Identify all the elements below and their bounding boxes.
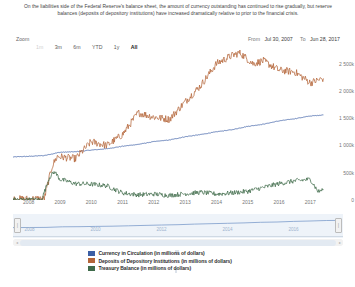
- navigator-tick-label: 2010: [90, 227, 100, 232]
- chart-plot-area[interactable]: [13, 50, 326, 200]
- x-axis-tick-label: 2010: [86, 199, 97, 205]
- x-axis-tick-label: 2009: [54, 199, 65, 205]
- scroll-left-icon[interactable]: ◂: [13, 239, 20, 246]
- range-selector-toolbar: Zoom 1m 3m 6m YTD 1y All From Jul 30, 20…: [0, 35, 355, 47]
- from-label: From: [248, 36, 260, 42]
- scrollbar-grip-icon: [176, 241, 181, 246]
- navigator-tick-label: 2016: [288, 227, 298, 232]
- scrollbar-track[interactable]: [20, 239, 336, 246]
- horizontal-scrollbar[interactable]: ◂ ▸: [13, 239, 343, 246]
- date-range-inputs: From Jul 30, 2007 To Jun 28, 2017: [248, 36, 346, 42]
- legend-label-treasury: Treasury Balance (in millions of dollars…: [99, 265, 192, 271]
- navigator-handle-right[interactable]: |: [335, 218, 342, 233]
- x-axis-tick-label: 2008: [23, 199, 34, 205]
- zoom-label: Zoom: [16, 36, 29, 42]
- y-axis-tick-label: 2 000k: [339, 88, 354, 94]
- x-axis-tick-label: 2014: [211, 199, 222, 205]
- navigator-tick-label: 2008: [24, 227, 34, 232]
- navigator-tick-label: 2014: [222, 227, 232, 232]
- y-axis-tick-label: 1 500k: [339, 115, 354, 121]
- legend-label-currency: Currency in Circulation (in millions of …: [99, 250, 205, 256]
- y-axis-labels: 0500k1 000k1 500k2 000k2 500k: [327, 50, 355, 202]
- y-axis-tick-label: 2 500k: [339, 61, 354, 67]
- from-date-input[interactable]: Jul 30, 2007: [264, 36, 292, 42]
- navigator-tick-label: 2012: [156, 227, 166, 232]
- legend-item-treasury[interactable]: Treasury Balance (in millions of dollars…: [0, 265, 355, 271]
- x-axis-tick-label: 2017: [305, 199, 316, 205]
- scroll-right-icon[interactable]: ▸: [336, 239, 343, 246]
- x-axis-tick-label: 2016: [273, 199, 284, 205]
- legend-item-currency[interactable]: Currency in Circulation (in millions of …: [0, 250, 355, 256]
- chart-series-line: [13, 115, 323, 157]
- stock-chart-widget: On the liabilities side of the Federal R…: [0, 0, 355, 287]
- range-buttons[interactable]: 1m 3m 6m YTD 1y All: [36, 35, 144, 45]
- chart-svg: [13, 50, 326, 200]
- y-axis-tick-label: 0: [351, 197, 354, 203]
- x-axis-labels: 2008200920102011201220132014201520162017: [13, 199, 326, 209]
- chart-series-line: [13, 50, 323, 200]
- chart-caption: On the liabilities side of the Federal R…: [24, 3, 332, 18]
- x-axis-tick-label: 2012: [148, 199, 159, 205]
- navigator-axis-line: [13, 236, 343, 237]
- x-axis-tick-label: 2013: [180, 199, 191, 205]
- navigator-series-area: 20082010201220142016: [13, 214, 343, 238]
- legend-item-deposits[interactable]: Deposits of Depository Institutions (in …: [0, 258, 355, 264]
- legend-swatch-currency: [88, 251, 95, 256]
- legend-swatch-deposits: [88, 258, 95, 263]
- y-axis-tick-label: 500k: [343, 170, 354, 176]
- to-label: To: [300, 36, 305, 42]
- navigator[interactable]: 20082010201220142016 | |: [13, 214, 343, 238]
- scrollbar-thumb[interactable]: [20, 240, 336, 246]
- y-axis-tick-label: 1 000k: [339, 142, 354, 148]
- chart-series-line: [13, 172, 323, 201]
- navigator-handle-left[interactable]: |: [14, 218, 21, 233]
- x-axis-tick-label: 2015: [242, 199, 253, 205]
- to-date-input[interactable]: Jun 28, 2017: [310, 36, 340, 42]
- x-axis-tick-label: 2011: [117, 199, 128, 205]
- chart-legend: Currency in Circulation (in millions of …: [0, 250, 355, 273]
- legend-swatch-treasury: [88, 266, 95, 271]
- legend-label-deposits: Deposits of Depository Institutions (in …: [99, 258, 232, 264]
